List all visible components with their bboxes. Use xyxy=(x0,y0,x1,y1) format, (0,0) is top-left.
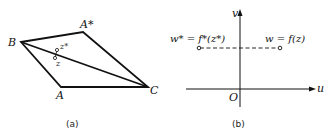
u-axis-arrow-icon xyxy=(309,87,316,92)
label-a-star: A* xyxy=(79,18,94,31)
caption-b: (b) xyxy=(232,119,245,129)
panel-b: v u O w* = f*(z*) w = f(z) (b) xyxy=(170,7,324,129)
label-w-star: w* = f*(z*) xyxy=(170,33,225,44)
label-z-star: z* xyxy=(59,42,68,51)
label-u: u xyxy=(317,82,324,95)
quadrilateral-b-astar-c-a xyxy=(21,32,148,87)
point-w xyxy=(278,46,282,50)
panel-a: B A* C A z* z (a) xyxy=(7,18,159,129)
label-a: A xyxy=(55,89,64,102)
label-v: v xyxy=(232,7,239,20)
label-z: z xyxy=(55,59,61,68)
label-origin: O xyxy=(229,91,238,104)
v-axis-arrow-icon xyxy=(238,9,243,16)
label-c: C xyxy=(150,84,159,97)
label-b: B xyxy=(7,36,16,49)
diagram-canvas: B A* C A z* z (a) v u O w* = f*(z*) w = … xyxy=(0,0,324,140)
point-w-star xyxy=(197,46,201,50)
caption-a: (a) xyxy=(66,119,79,129)
label-w: w = f(z) xyxy=(265,33,305,44)
point-z-star xyxy=(55,48,58,51)
